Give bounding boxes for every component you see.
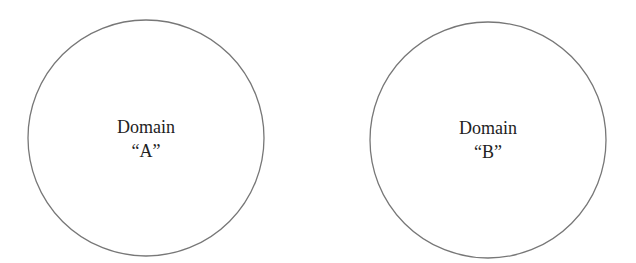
- domain-b-name: “B”: [428, 140, 548, 164]
- domain-a-name: “A”: [86, 139, 206, 163]
- domain-a-label: Domain “A”: [86, 115, 206, 163]
- domain-b-title: Domain: [428, 116, 548, 140]
- domain-a-title: Domain: [86, 115, 206, 139]
- domain-b-label: Domain “B”: [428, 116, 548, 164]
